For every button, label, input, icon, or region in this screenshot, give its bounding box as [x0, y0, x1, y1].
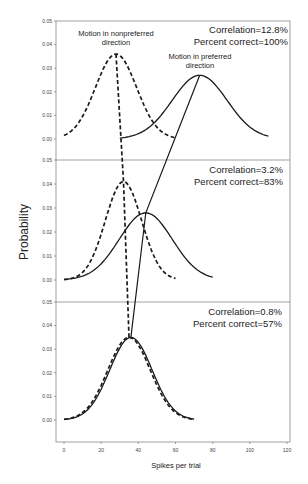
svg-text:100: 100 [246, 447, 255, 453]
svg-text:0.01: 0.01 [42, 393, 52, 399]
x-axis-label: Spikes per trial [151, 461, 201, 470]
panel1-percent-correct: Percent correct=100% [194, 36, 289, 47]
svg-text:120: 120 [283, 447, 292, 453]
panel2-percent-correct: Percent correct=83% [194, 176, 284, 187]
nonpreferred-label-line1: Motion in nonpreferred [78, 29, 153, 38]
svg-text:0.05: 0.05 [42, 299, 52, 305]
plot-frame [56, 21, 290, 442]
svg-text:20: 20 [98, 447, 104, 453]
svg-text:0.01: 0.01 [42, 112, 52, 118]
svg-text:0.05: 0.05 [42, 157, 52, 163]
panel2-correlation: Correlation=3.2% [209, 164, 283, 175]
peak-connectors [116, 54, 200, 337]
svg-text:0.03: 0.03 [42, 65, 52, 71]
svg-text:0: 0 [63, 447, 66, 453]
svg-text:60: 60 [173, 447, 179, 453]
panel3-percent-correct: Percent correct=57% [193, 318, 283, 329]
svg-text:0.00: 0.00 [42, 136, 52, 142]
svg-text:0.05: 0.05 [42, 18, 52, 24]
svg-text:0.00: 0.00 [42, 277, 52, 283]
panel1-correlation: Correlation=12.8% [209, 24, 289, 35]
preferred-label-line2: direction [186, 61, 214, 70]
svg-text:80: 80 [210, 447, 216, 453]
preferred-label-line1: Motion in preferred [169, 52, 232, 61]
chart-svg: 0.000.010.020.030.040.050.000.010.020.03… [0, 0, 308, 484]
svg-text:0.02: 0.02 [42, 229, 52, 235]
svg-text:0.04: 0.04 [42, 181, 52, 187]
nonpreferred-label-line2: direction [102, 38, 130, 47]
distribution-curves [64, 54, 268, 419]
svg-text:0.03: 0.03 [42, 205, 52, 211]
svg-text:0.04: 0.04 [42, 322, 52, 328]
svg-text:0.02: 0.02 [42, 370, 52, 376]
probability-distributions-figure: 0.000.010.020.030.040.050.000.010.020.03… [0, 0, 308, 484]
svg-text:0.00: 0.00 [42, 417, 52, 423]
svg-text:0.02: 0.02 [42, 89, 52, 95]
y-axis-label: Probability [17, 204, 31, 260]
axis-ticks: 0.000.010.020.030.040.050.000.010.020.03… [42, 18, 291, 453]
svg-text:0.04: 0.04 [42, 41, 52, 47]
svg-text:40: 40 [136, 447, 142, 453]
svg-text:0.03: 0.03 [42, 346, 52, 352]
panel3-correlation: Correlation=0.8% [208, 306, 282, 317]
svg-text:0.01: 0.01 [42, 253, 52, 259]
